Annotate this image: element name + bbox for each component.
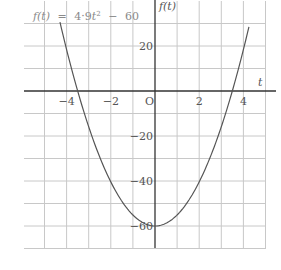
y-tick-label: 20 [139,40,153,53]
y-tick-label: −20 [130,130,153,143]
x-tick-label: 4 [240,95,247,108]
x-tick-label: 2 [196,95,203,108]
x-axis-label: t [258,76,263,89]
y-axis-label: f(t) [158,0,176,13]
y-tick-label: −60 [130,220,153,233]
x-tick-label: −2 [103,95,119,108]
y-tick-label: −40 [130,175,153,188]
grid-lines [24,1,266,249]
function-graph: f(t) = 4·9t2 − 60 f(t) t O −4−224 20−20−… [0,0,281,270]
function-equation-label: f(t) = 4·9t2 − 60 [32,6,139,23]
x-tick-label: −4 [58,95,74,108]
axes [24,0,276,248]
origin-label: O [145,95,154,108]
